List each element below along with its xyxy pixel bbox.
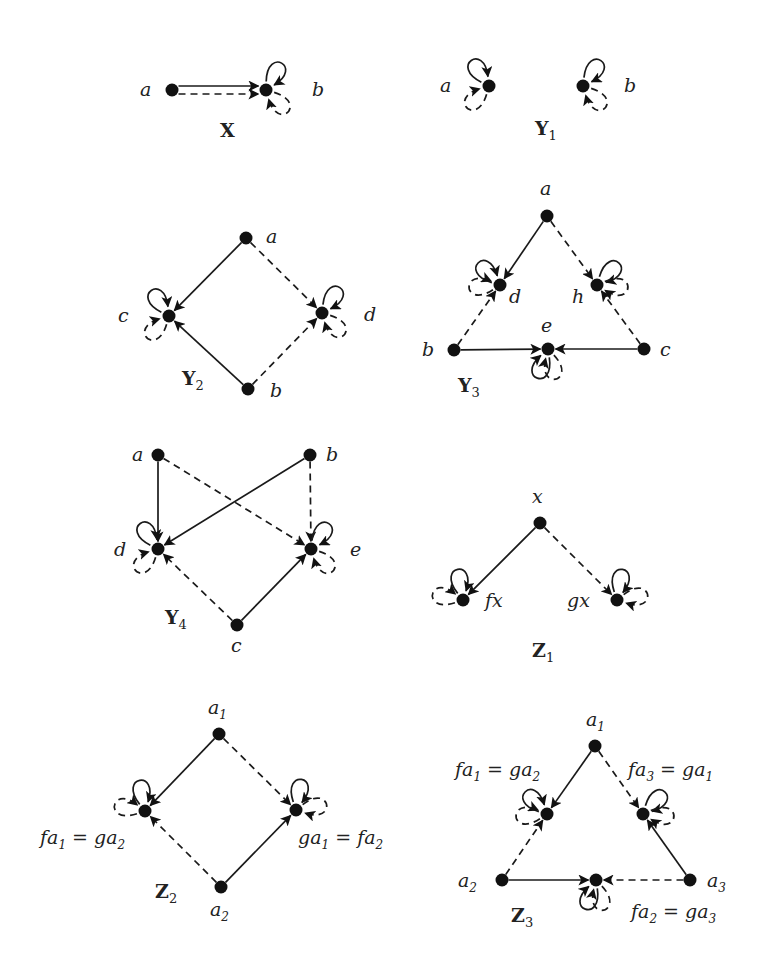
graph-title-Z3: Z3 [511, 904, 533, 930]
node-e [305, 543, 318, 556]
solid-loop-b [584, 59, 604, 82]
solid-loop-d [137, 522, 157, 545]
graph-Y2: acdbY2 [118, 225, 376, 401]
node-b [577, 80, 590, 93]
dashed-edge-b-e [310, 461, 311, 541]
solid-loop-gx [612, 569, 629, 592]
solid-edge-a1-L [150, 739, 214, 806]
dashed-edge-a2-L [506, 820, 543, 874]
dashed-loop-e [545, 355, 562, 379]
dashed-loop-b [269, 92, 290, 114]
dashed-loop-R [651, 808, 674, 825]
dashed-edge-a2-L [150, 816, 216, 882]
dashed-loop-d [469, 278, 493, 295]
node-b [260, 84, 273, 97]
node-label-e: e [350, 538, 361, 560]
node-label-d: d [509, 285, 521, 307]
node-label-a: a [540, 177, 551, 199]
node-label-d: d [364, 303, 376, 325]
graph-Z1: xfxgxZ1 [432, 485, 647, 665]
node-label-a: a [266, 225, 277, 247]
node-label-L: fa1 = ga2 [453, 758, 540, 784]
node-R [637, 808, 650, 821]
node-a [541, 210, 554, 223]
node-label-a2: a2 [458, 869, 477, 895]
node-x [534, 517, 547, 530]
solid-edge-a3-R [647, 820, 686, 875]
node-c [163, 310, 176, 323]
node-label-c: c [660, 338, 671, 360]
graph-Y1: abY1 [440, 59, 636, 143]
solid-loop-b [266, 62, 285, 85]
graph-title-Z1: Z1 [532, 639, 554, 665]
dashed-edge-x-gx [545, 528, 612, 595]
graph-Y4: abdecY4 [114, 443, 361, 656]
node-label-x: x [532, 485, 543, 507]
dashed-loop-b [586, 88, 607, 110]
node-label-b: b [270, 379, 282, 401]
node-label-a3: a3 [707, 869, 726, 895]
node-L [541, 808, 554, 821]
solid-edge-x-fx [468, 528, 535, 595]
node-a1 [589, 740, 602, 753]
node-a1 [213, 728, 226, 741]
node-e [590, 874, 603, 887]
node-label-a: a [440, 74, 451, 96]
dashed-loop-a [465, 89, 487, 110]
graph-Z3: a1fa1 = ga2fa3 = ga1a2fa2 = ga3a3Z3 [453, 708, 726, 930]
node-label-a2: a2 [210, 898, 229, 924]
solid-loop-e [312, 522, 332, 545]
dashed-edge-b-d [458, 291, 496, 345]
node-label-R: ga1 = fa2 [298, 826, 383, 852]
solid-loop-L [133, 780, 150, 804]
node-a [152, 449, 165, 462]
graph-title-Z2: Z2 [155, 880, 177, 906]
node-label-e: e [541, 314, 552, 336]
solid-edge-c-e [242, 554, 306, 620]
solid-edge-a-c [174, 243, 241, 311]
node-label-a: a [140, 78, 151, 100]
node-label-R: fa3 = ga1 [626, 758, 713, 784]
node-a3 [684, 874, 697, 887]
graph-diagram-canvas: abXabY1acdbY2adhbecY3abdecY4xfxgxZ1a1fa1… [0, 0, 777, 976]
dashed-loop-L [516, 807, 540, 824]
dashed-edge-b-d [253, 318, 317, 384]
solid-edge-a-d [504, 221, 543, 278]
node-label-h: h [572, 285, 584, 307]
graph-Y3: adhbecY3 [422, 177, 671, 400]
node-h [591, 279, 604, 292]
dashed-edge-a-d [251, 243, 317, 308]
node-label-a1: a1 [586, 708, 605, 734]
node-a [166, 84, 179, 97]
node-d [316, 307, 329, 320]
node-c [231, 619, 244, 632]
solid-edge-a1-L [551, 751, 591, 808]
dashed-loop-d [134, 552, 156, 573]
dashed-edge-c-h [601, 291, 640, 344]
solid-edge-a2-R [226, 815, 291, 882]
dashed-loop-e [593, 886, 610, 910]
node-label-fx: fx [483, 589, 503, 611]
solid-loop-c [148, 289, 168, 312]
node-label-b: b [422, 338, 434, 360]
dashed-loop-gx [624, 588, 648, 605]
solid-loop-fx [451, 569, 468, 593]
graph-title-Y4: Y4 [164, 606, 187, 632]
graph-title-Y2: Y2 [181, 367, 204, 393]
dashed-loop-R [303, 798, 327, 815]
node-fx [457, 594, 470, 607]
node-label-b: b [326, 443, 338, 465]
node-a [483, 80, 496, 93]
dashed-edge-a-h [551, 221, 593, 279]
graph-title-Y3: Y3 [457, 374, 480, 400]
dashed-loop-d [325, 315, 346, 337]
graph-title-Y1: Y1 [534, 117, 557, 143]
dashed-loop-L [114, 799, 137, 816]
dashed-loop-h [605, 279, 628, 296]
node-label-gx: gx [567, 589, 590, 611]
node-b [242, 383, 255, 396]
node-a2 [496, 874, 509, 887]
node-gx [611, 594, 624, 607]
node-label-a: a [132, 443, 143, 465]
node-L [139, 805, 152, 818]
